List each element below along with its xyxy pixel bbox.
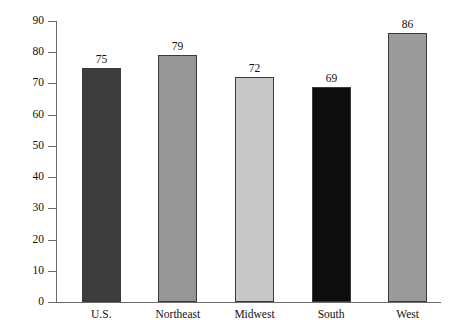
bar <box>388 33 427 302</box>
y-tick-mark <box>48 271 56 272</box>
bar <box>82 68 121 302</box>
x-axis-line <box>56 302 441 303</box>
y-tick-mark <box>48 83 56 84</box>
y-tick-label: 30 <box>0 202 44 214</box>
bar-value-label: 86 <box>368 18 447 30</box>
y-tick-label: 0 <box>0 296 44 308</box>
y-tick-mark <box>48 240 56 241</box>
bar <box>158 55 197 302</box>
y-tick-label: 60 <box>0 109 44 121</box>
y-tick-mark <box>48 115 56 116</box>
bar <box>312 87 351 302</box>
y-axis-line <box>56 21 57 303</box>
y-tick-label: 20 <box>0 234 44 246</box>
bar-chart: 0102030405060708090 7579726986 U.S.North… <box>0 0 457 335</box>
y-tick-mark <box>48 21 56 22</box>
y-tick-label: 10 <box>0 265 44 277</box>
y-tick-mark <box>48 302 56 303</box>
y-tick-mark <box>48 177 56 178</box>
bar-value-label: 69 <box>292 72 371 84</box>
y-tick-label: 80 <box>0 46 44 58</box>
category-label: West <box>363 308 453 321</box>
y-tick-mark <box>48 52 56 53</box>
bar-value-label: 72 <box>215 62 294 74</box>
y-tick-label: 50 <box>0 140 44 152</box>
y-tick-label: 70 <box>0 77 44 89</box>
bar-value-label: 79 <box>138 40 217 52</box>
y-tick-label: 90 <box>0 15 44 27</box>
y-tick-mark <box>48 146 56 147</box>
bar <box>235 77 274 302</box>
y-tick-mark <box>48 208 56 209</box>
bar-value-label: 75 <box>62 53 141 65</box>
plot-area: 0102030405060708090 7579726986 U.S.North… <box>0 0 457 335</box>
y-tick-label: 40 <box>0 171 44 183</box>
